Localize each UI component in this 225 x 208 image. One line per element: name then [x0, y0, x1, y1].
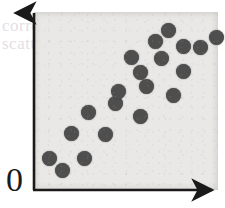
data-point: [124, 50, 139, 65]
data-point: [209, 30, 224, 45]
data-point: [176, 39, 191, 54]
data-point: [55, 163, 70, 178]
scatter-plot-figure: correlation scatter positive relationshi…: [0, 0, 225, 208]
data-point: [77, 151, 92, 166]
origin-label: 0: [6, 163, 23, 197]
data-point: [148, 34, 163, 49]
data-point: [111, 84, 126, 99]
data-point: [133, 65, 148, 80]
plot-area: [34, 12, 218, 190]
data-point: [42, 151, 57, 166]
data-point: [154, 51, 169, 66]
data-point: [176, 64, 191, 79]
data-point: [81, 105, 96, 120]
data-point: [139, 79, 154, 94]
data-point: [193, 40, 208, 55]
data-point: [64, 126, 79, 141]
data-point: [166, 88, 181, 103]
data-point: [98, 127, 113, 142]
data-point: [133, 109, 148, 124]
data-point: [161, 23, 176, 38]
